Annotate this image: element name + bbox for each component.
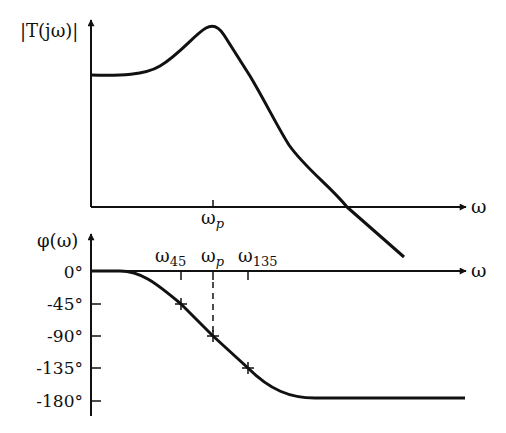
phase-x-ticks — [181, 271, 248, 280]
tick-135: -135° — [36, 358, 83, 378]
magnitude-plot: |T(jω)| ω ωp — [20, 20, 487, 257]
phase-y-ticks — [91, 304, 101, 401]
phase-y-label: φ(ω) — [37, 230, 78, 251]
mag-x-label: ω — [471, 195, 487, 217]
phase-x-label: ω — [471, 259, 487, 281]
tick-0: 0° — [64, 262, 83, 282]
tick-90: -90° — [47, 326, 83, 346]
omega-135-label: ω135 — [238, 245, 278, 269]
phase-curve — [91, 271, 465, 398]
bode-diagram: |T(jω)| ω ωp φ(ω) ω ω45 ωp ω135 — [0, 0, 506, 433]
tick-180: -180° — [36, 391, 83, 411]
mag-y-label: |T(jω)| — [20, 20, 78, 42]
tick-45: -45° — [47, 294, 83, 314]
omega-p-label-top: ωp — [201, 207, 225, 231]
omega-45-label: ω45 — [155, 245, 186, 269]
omega-p-label-bottom: ωp — [201, 245, 225, 269]
phase-tick-labels: 0° -45° -90° -135° -180° — [36, 262, 83, 411]
magnitude-curve — [91, 26, 404, 257]
phase-plot: φ(ω) ω ω45 ωp ω135 0° -45° -90° -135° -1… — [36, 230, 486, 416]
